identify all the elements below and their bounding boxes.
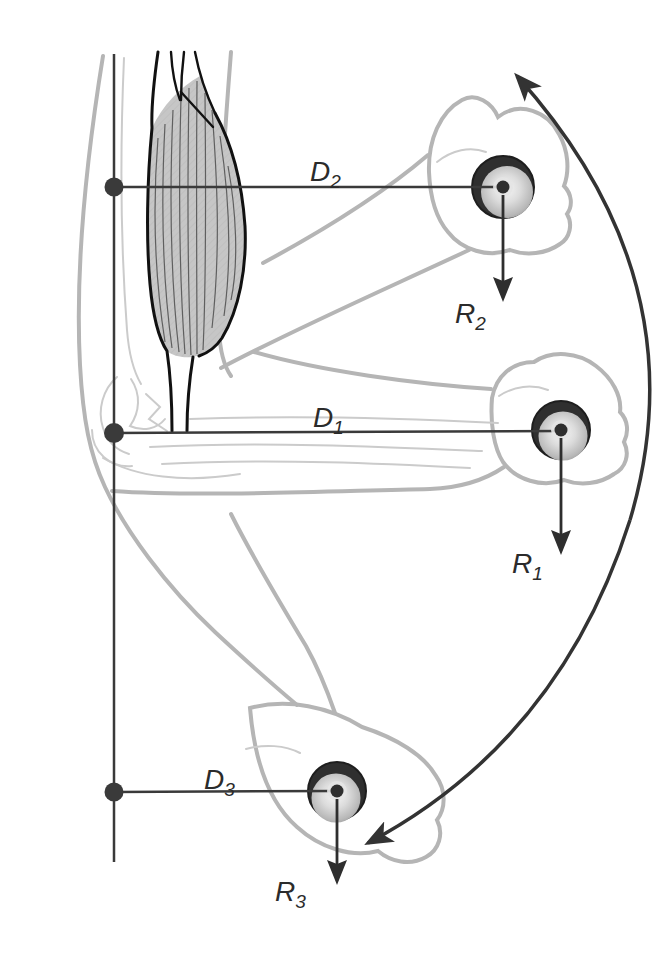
forearm-down-contour xyxy=(231,514,335,713)
label-r2: R2 xyxy=(455,298,486,334)
motion-arc-lower-half xyxy=(368,520,630,843)
radius-bone-lower xyxy=(162,461,470,468)
humerus-line xyxy=(122,58,141,384)
label-r1: R1 xyxy=(512,548,543,584)
label-d2: D2 xyxy=(310,156,341,192)
forearm-horizontal-bottom-contour xyxy=(112,467,504,494)
forearm-bone-top xyxy=(190,417,498,423)
labels: D2 D1 D3 R2 R1 R3 xyxy=(204,156,543,912)
motion-arc-upper-half xyxy=(517,76,650,520)
label-r3: R3 xyxy=(275,876,306,912)
figure-canvas: D2 D1 D3 R2 R1 R3 xyxy=(0,0,672,956)
label-d3: D3 xyxy=(204,764,235,800)
hand-horizontal-crease xyxy=(499,387,548,396)
elbow-bone-b xyxy=(130,379,165,429)
forearm-up-top-contour xyxy=(263,155,428,263)
radius-bone-upper xyxy=(150,444,482,451)
hand-up-crease xyxy=(437,149,486,162)
label-d1: D1 xyxy=(313,402,344,438)
forearm-horizontal-top-contour xyxy=(254,352,491,389)
axis-dot-d1 xyxy=(104,423,124,443)
force-arrows xyxy=(337,195,561,880)
axis-dot-d3 xyxy=(105,783,124,802)
axis-dot-d2 xyxy=(105,178,124,197)
proximal-tendon-1 xyxy=(171,52,180,100)
diagram-svg: D2 D1 D3 R2 R1 R3 xyxy=(0,0,672,956)
forearm-up-bottom-contour xyxy=(221,250,469,368)
